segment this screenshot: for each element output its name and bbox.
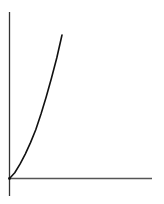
series-line-0 xyxy=(10,35,63,179)
series-layer xyxy=(8,35,62,180)
origin-point xyxy=(8,177,11,180)
chart xyxy=(0,0,164,204)
